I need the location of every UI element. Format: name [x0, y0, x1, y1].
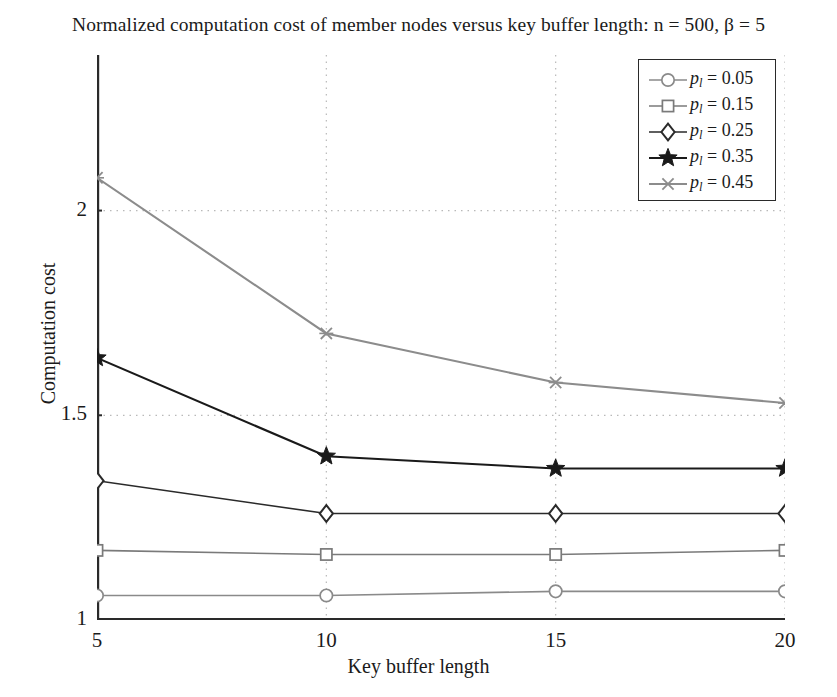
data-point-circle — [97, 589, 103, 601]
legend-marker-square-icon — [646, 94, 690, 118]
legend-item-0-15[interactable]: pl = 0.15 — [639, 92, 777, 119]
y-tick-label: 2 — [27, 197, 87, 222]
chart-title: Normalized computation cost of member no… — [0, 14, 837, 36]
legend-label: pl = 0.45 — [690, 172, 753, 195]
data-point-square — [550, 549, 561, 560]
data-point-diamond — [778, 505, 785, 522]
legend-item-0-35[interactable]: pl = 0.35 — [639, 144, 777, 171]
legend-label: pl = 0.05 — [690, 68, 753, 91]
legend-marker-x-icon — [646, 172, 690, 196]
series-0-35 — [97, 348, 785, 476]
legend-item-0-25[interactable]: pl = 0.25 — [639, 118, 777, 145]
data-point-diamond — [320, 505, 333, 522]
data-point-x — [778, 397, 785, 408]
x-tick-label: 10 — [296, 628, 356, 653]
legend-label: pl = 0.35 — [690, 146, 753, 169]
series-0-15 — [97, 545, 785, 560]
data-point-square — [321, 549, 332, 560]
data-point-square — [779, 545, 785, 556]
data-point-circle — [320, 589, 332, 601]
data-point-star — [547, 459, 565, 476]
x-tick-label: 5 — [67, 628, 127, 653]
data-point-diamond — [97, 472, 104, 489]
series-line — [97, 591, 785, 595]
legend-label: pl = 0.15 — [690, 94, 753, 117]
x-tick-label: 20 — [755, 628, 815, 653]
data-point-circle — [662, 73, 674, 85]
x-axis-label: Key buffer length — [0, 655, 837, 678]
data-point-star — [97, 348, 106, 365]
axis-ticks — [97, 211, 785, 620]
series-0-05 — [97, 585, 785, 601]
data-point-x — [549, 377, 563, 388]
data-point-circle — [549, 585, 561, 597]
legend-label: pl = 0.25 — [690, 120, 753, 143]
legend-marker-diamond-icon — [646, 120, 690, 144]
series-line — [97, 481, 785, 514]
data-point-square — [97, 545, 103, 556]
data-point-star — [659, 148, 677, 165]
series-line — [97, 178, 785, 403]
y-tick-label: 1.5 — [27, 401, 87, 426]
data-point-circle — [779, 585, 785, 597]
x-tick-label: 15 — [526, 628, 586, 653]
legend-item-0-05[interactable]: pl = 0.05 — [639, 66, 777, 93]
data-point-diamond — [549, 505, 562, 522]
series-line — [97, 358, 785, 469]
data-point-x — [661, 178, 675, 189]
legend-item-0-45[interactable]: pl = 0.45 — [639, 170, 777, 197]
series-0-45 — [97, 172, 785, 408]
data-point-square — [662, 100, 673, 111]
legend-marker-circle-icon — [646, 68, 690, 92]
series-line — [97, 550, 785, 554]
legend-marker-star-icon — [646, 146, 690, 170]
chart-legend: pl = 0.05pl = 0.15pl = 0.25pl = 0.35pl =… — [638, 59, 776, 201]
data-point-diamond — [661, 123, 674, 140]
data-point-star — [317, 447, 335, 464]
series-0-25 — [97, 472, 785, 522]
chart-figure: Normalized computation cost of member no… — [0, 0, 837, 697]
